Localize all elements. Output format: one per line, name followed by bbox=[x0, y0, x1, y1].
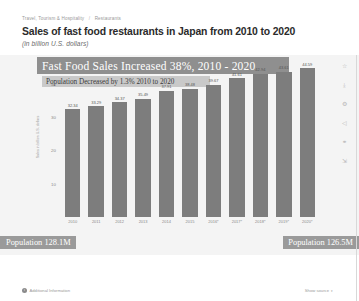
breadcrumb[interactable]: Travel, Tourism & Hospitality / Restaura… bbox=[22, 16, 337, 21]
x-axis: 2010201120122013201420152016*2017*2018*2… bbox=[61, 219, 319, 229]
bar-value-label: 35.49 bbox=[138, 92, 148, 97]
bar-value-label: 41.61 bbox=[232, 72, 242, 77]
x-axis-tick: 2010 bbox=[61, 219, 84, 229]
y-axis: Sales in billion U.S. dollars 40302010 bbox=[37, 57, 59, 217]
bar[interactable] bbox=[300, 68, 315, 217]
bar-column[interactable]: 43.61 bbox=[272, 57, 295, 217]
bar[interactable] bbox=[65, 109, 80, 217]
bar-value-label: 32.34 bbox=[68, 103, 78, 108]
bar-value-label: 42.94 bbox=[255, 67, 265, 72]
bar-column[interactable]: 39.67 bbox=[202, 57, 225, 217]
bar[interactable] bbox=[112, 102, 127, 217]
bar[interactable] bbox=[206, 85, 221, 217]
bar-column[interactable]: 35.49 bbox=[131, 57, 154, 217]
bar-column[interactable]: 37.91 bbox=[155, 57, 178, 217]
bar-column[interactable]: 42.94 bbox=[249, 57, 272, 217]
x-axis-tick: 2015 bbox=[178, 219, 201, 229]
bar[interactable] bbox=[159, 91, 174, 217]
bar-column[interactable]: 33.29 bbox=[84, 57, 107, 217]
bar-value-label: 34.37 bbox=[115, 96, 125, 101]
bar-series: 32.3433.2934.3735.4937.9138.4839.6741.61… bbox=[61, 57, 319, 217]
x-axis-tick: 2011 bbox=[84, 219, 107, 229]
x-axis-tick: 2012 bbox=[108, 219, 131, 229]
y-axis-title: Sales in billion U.S. dollars bbox=[36, 116, 40, 159]
page-title: Sales of fast food restaurants in Japan … bbox=[22, 26, 337, 37]
y-axis-tick: 30 bbox=[51, 115, 56, 120]
breadcrumb-separator-icon: / bbox=[89, 16, 90, 21]
x-axis-tick: 2017* bbox=[225, 219, 248, 229]
x-axis-tick: 2016* bbox=[202, 219, 225, 229]
bar-value-label: 44.59 bbox=[302, 62, 312, 67]
bar[interactable] bbox=[135, 99, 150, 217]
breadcrumb-item-subcategory[interactable]: Restaurants bbox=[95, 16, 121, 21]
link-icon[interactable]: ⚭ bbox=[340, 137, 349, 146]
expand-icon[interactable]: ⇲ bbox=[340, 156, 349, 165]
y-axis-tick: 20 bbox=[51, 148, 56, 153]
x-axis-tick: 2020* bbox=[296, 219, 319, 229]
download-icon[interactable]: ⤓ bbox=[340, 80, 349, 89]
show-source-label: Show source bbox=[305, 288, 329, 293]
x-axis-tick: 2014 bbox=[155, 219, 178, 229]
chart-action-rail[interactable]: ☆⤓⚙◁⚭⇲ bbox=[337, 61, 351, 165]
bar[interactable] bbox=[229, 78, 244, 217]
x-axis-tick: 2019* bbox=[272, 219, 295, 229]
share-icon[interactable]: ◁ bbox=[340, 118, 349, 127]
star-icon[interactable]: ☆ bbox=[340, 61, 349, 70]
bar[interactable] bbox=[88, 106, 103, 217]
page-header: Travel, Tourism & Hospitality / Restaura… bbox=[0, 16, 359, 47]
bar-column[interactable]: 38.48 bbox=[178, 57, 201, 217]
x-axis-tick: 2013 bbox=[131, 219, 154, 229]
population-label-start: Population 128.1M bbox=[0, 236, 76, 249]
bar[interactable] bbox=[253, 74, 268, 217]
bar[interactable] bbox=[276, 72, 291, 217]
bar-column[interactable]: 44.59 bbox=[296, 57, 319, 217]
bar-value-label: 37.91 bbox=[162, 84, 172, 89]
bar-column[interactable]: 41.61 bbox=[225, 57, 248, 217]
bar-value-label: 43.61 bbox=[279, 65, 289, 70]
show-source-link[interactable]: Show source ▾ bbox=[305, 288, 333, 293]
bar-value-label: 39.67 bbox=[208, 78, 218, 83]
plot-area: Sales in billion U.S. dollars 40302010 3… bbox=[37, 57, 319, 217]
bar-column[interactable]: 32.34 bbox=[61, 57, 84, 217]
rail-divider bbox=[356, 55, 357, 301]
additional-information-link[interactable]: i Additional Information bbox=[22, 288, 70, 293]
statista-chart-page: Travel, Tourism & Hospitality / Restaura… bbox=[0, 0, 359, 301]
bar-column[interactable]: 34.37 bbox=[108, 57, 131, 217]
population-label-end: Population 126.5M bbox=[283, 236, 359, 249]
additional-information-label: Additional Information bbox=[30, 288, 71, 293]
breadcrumb-item-category[interactable]: Travel, Tourism & Hospitality bbox=[22, 16, 84, 21]
bar-value-label: 38.48 bbox=[185, 82, 195, 87]
y-axis-tick: 40 bbox=[51, 81, 56, 86]
chevron-down-icon: ▾ bbox=[331, 289, 333, 293]
settings-icon[interactable]: ⚙ bbox=[340, 99, 349, 108]
chart-footer: i Additional Information Show source ▾ bbox=[22, 288, 333, 293]
bar-value-label: 33.29 bbox=[91, 100, 101, 105]
info-icon: i bbox=[22, 288, 27, 293]
x-axis-tick: 2018* bbox=[249, 219, 272, 229]
y-axis-tick: 10 bbox=[51, 181, 56, 186]
page-subtitle: (in billion U.S. dollars) bbox=[22, 40, 337, 47]
bar[interactable] bbox=[182, 89, 197, 217]
chart-card: Fast Food Sales Increased 38%, 2010 - 20… bbox=[0, 55, 359, 255]
